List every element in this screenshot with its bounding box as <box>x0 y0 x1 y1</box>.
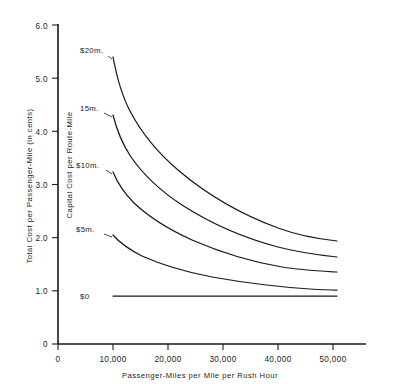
y-axis-secondary-title: Capital Cost per Route-Mile <box>65 112 74 219</box>
x-tick-label-2: 20,000 <box>154 355 181 364</box>
curve-label-10m: $10m. <box>76 161 99 170</box>
curve-leader-20m <box>108 56 112 59</box>
curve-label-5m: $5m. <box>76 225 95 234</box>
x-axis-title: Passenger-Miles per Mile per Rush Hour <box>122 371 278 380</box>
curve-5m <box>113 235 337 290</box>
y-tick-label-5: 5.0 <box>36 75 49 84</box>
x-axis-ticks <box>58 344 333 350</box>
y-tick-label-3: 3.0 <box>36 181 49 190</box>
curve-10m <box>113 172 337 272</box>
y-tick-label-4: 4.0 <box>36 128 49 137</box>
y-axis-ticks <box>52 25 58 344</box>
y-tick-label-0: 0 <box>43 340 48 349</box>
curve-label-0: $0 <box>80 292 90 301</box>
curve-leader-10m <box>106 170 112 174</box>
y-tick-label-1: 1.0 <box>36 287 49 296</box>
curve-label-20m: $20m. <box>80 46 103 55</box>
y-axis-title: Total Cost per Passenger-Mile (in cents) <box>25 108 34 263</box>
chart-svg: 0 1.0 2.0 3.0 4.0 5.0 6.0 0 10,000 20,00… <box>0 0 394 392</box>
curve-leader-5m <box>104 234 112 237</box>
x-tick-label-0: 0 <box>56 355 61 364</box>
x-tick-label-1: 10,000 <box>99 355 126 364</box>
curve-leader-15m <box>104 113 112 117</box>
curve-label-15m: 15m. <box>80 104 99 113</box>
data-curves <box>113 57 337 296</box>
x-tick-label-3: 30,000 <box>209 355 236 364</box>
x-tick-label-4: 40,000 <box>264 355 291 364</box>
y-tick-label-2: 2.0 <box>36 234 49 243</box>
x-tick-label-5: 50,000 <box>319 355 346 364</box>
y-tick-label-6: 6.0 <box>36 22 49 31</box>
chart-figure: 0 1.0 2.0 3.0 4.0 5.0 6.0 0 10,000 20,00… <box>0 0 394 392</box>
